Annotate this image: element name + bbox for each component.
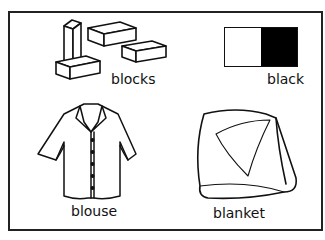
- blanket-icon: [186, 108, 296, 203]
- label-black: black: [267, 72, 304, 86]
- label-blocks: blocks: [111, 72, 155, 86]
- blouse-icon: [36, 96, 146, 206]
- label-blouse: blouse: [71, 204, 117, 218]
- swatch-white-half: [225, 28, 261, 66]
- color-swatch-black: [224, 27, 298, 67]
- swatch-black-half: [261, 28, 297, 66]
- label-blanket: blanket: [213, 206, 265, 220]
